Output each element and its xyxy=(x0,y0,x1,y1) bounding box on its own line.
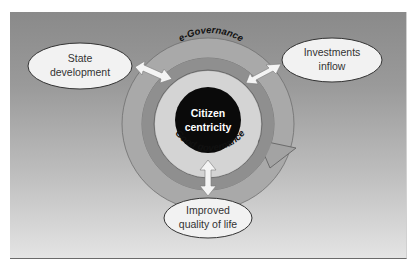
investments-label-line1: Investments xyxy=(304,46,361,58)
quality-label-line2: quality of life xyxy=(179,218,238,230)
governance-cycle-diagram: Citizen centricity e-Governance Good gov… xyxy=(0,0,415,268)
quality-label-line1: Improved xyxy=(186,204,230,216)
center-label-line1: Citizen xyxy=(191,107,225,119)
node-state-development: State development xyxy=(28,43,132,89)
node-investments-inflow: Investments inflow xyxy=(282,38,382,82)
state-label-line1: State xyxy=(68,52,93,64)
center-label-line2: centricity xyxy=(185,121,232,133)
state-label-line2: development xyxy=(50,66,110,78)
node-quality-of-life: Improved quality of life xyxy=(164,198,252,238)
investments-label-line2: inflow xyxy=(319,60,346,72)
